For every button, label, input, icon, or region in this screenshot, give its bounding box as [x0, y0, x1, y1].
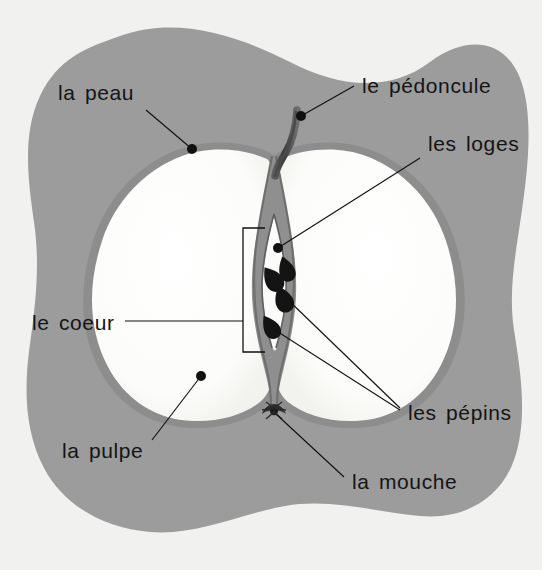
- diagram-canvas: la peau le pédoncule les loges le coeur …: [0, 0, 542, 570]
- dot-la-pulpe: [196, 371, 206, 381]
- label-la-pulpe: la pulpe: [62, 439, 143, 462]
- apple-anatomy-diagram: la peau le pédoncule les loges le coeur …: [0, 0, 542, 570]
- dot-la-peau: [187, 144, 197, 154]
- label-le-coeur: le coeur: [32, 311, 115, 334]
- label-les-pepins: les pépins: [408, 401, 512, 424]
- label-la-mouche: la mouche: [352, 470, 457, 493]
- dot-le-pedoncule: [296, 111, 306, 121]
- label-le-pedoncule: le pédoncule: [362, 74, 491, 97]
- label-la-peau: la peau: [58, 81, 134, 104]
- label-les-loges: les loges: [428, 132, 519, 155]
- dot-les-loges: [273, 243, 283, 253]
